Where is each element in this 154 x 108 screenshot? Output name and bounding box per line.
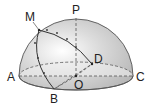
label-p: P: [72, 3, 80, 17]
label-m: M: [25, 10, 35, 24]
label-c: C: [136, 70, 145, 84]
label-a: A: [7, 70, 15, 84]
hemisphere-diagram: P M D A C O B: [0, 0, 154, 108]
label-d: D: [94, 52, 103, 66]
point-o: [75, 75, 77, 77]
point-d: [91, 63, 93, 65]
label-b: B: [50, 92, 58, 106]
label-o: O: [74, 78, 83, 92]
